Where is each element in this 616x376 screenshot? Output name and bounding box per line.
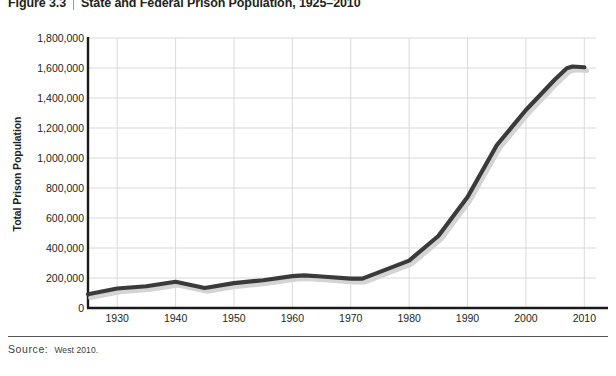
figure-number: Figure 3.3 xyxy=(8,0,66,10)
grid-lines xyxy=(88,38,596,308)
source-note: Source: West 2010. xyxy=(8,343,98,355)
figure-header: Figure 3.3 State and Federal Prison Popu… xyxy=(8,0,608,11)
figure-divider xyxy=(73,0,74,10)
source-label: Source: xyxy=(8,343,48,355)
series-line-total-prison-population xyxy=(88,67,584,295)
figure-title: State and Federal Prison Population, 192… xyxy=(81,0,361,10)
chart-container: Total Prison Population 0200,000400,0006… xyxy=(0,18,616,330)
source-divider xyxy=(8,336,608,337)
series-line-shadow xyxy=(91,70,587,298)
header-dotted-rule xyxy=(8,12,608,14)
plot-svg xyxy=(0,18,616,330)
source-text: West 2010. xyxy=(54,345,98,355)
axis-lines xyxy=(87,37,608,308)
